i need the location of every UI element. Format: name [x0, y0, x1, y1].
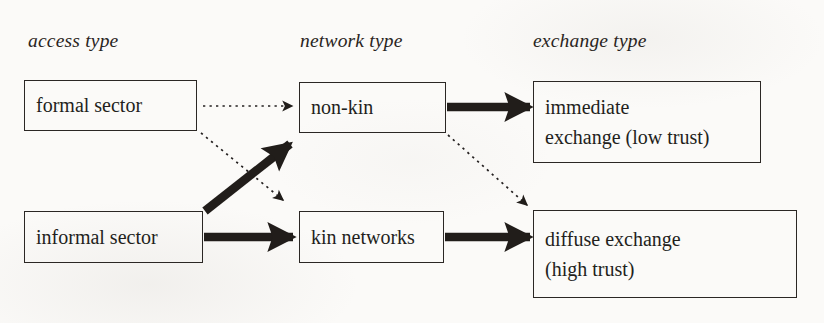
- node-informal-sector-label: informal sector: [25, 223, 202, 251]
- diagram-canvas: access type network type exchange type: [0, 0, 824, 323]
- node-non-kin-label: non-kin: [300, 93, 445, 121]
- node-formal-sector[interactable]: formal sector: [24, 80, 197, 131]
- edge-informal-to-nonkin: [205, 144, 290, 211]
- node-diffuse-exchange[interactable]: diffuse exchange (high trust): [533, 210, 797, 298]
- node-non-kin[interactable]: non-kin: [299, 82, 446, 133]
- edge-nonkin-to-diffuse: [448, 135, 527, 205]
- node-kin-networks[interactable]: kin networks: [299, 211, 444, 263]
- node-diffuse-exchange-label-line2: (high trust): [534, 254, 796, 284]
- node-kin-networks-label: kin networks: [300, 223, 443, 251]
- node-diffuse-exchange-label-line1: diffuse exchange: [534, 224, 796, 254]
- node-formal-sector-label: formal sector: [25, 91, 196, 119]
- node-immediate-exchange[interactable]: immediate exchange (low trust): [533, 81, 761, 163]
- node-immediate-exchange-label-line1: immediate: [534, 92, 760, 122]
- node-immediate-exchange-label-line2: exchange (low trust): [534, 122, 760, 152]
- node-informal-sector[interactable]: informal sector: [24, 211, 203, 263]
- edge-formal-to-kin: [201, 133, 283, 200]
